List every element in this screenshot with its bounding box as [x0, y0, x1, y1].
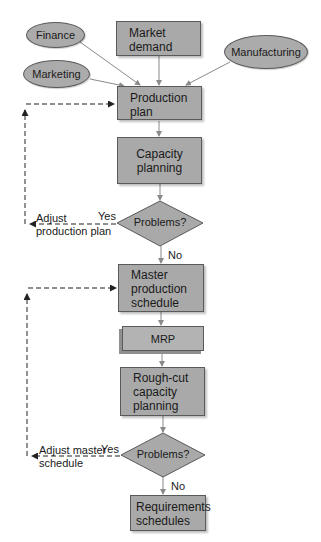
no-label-2: No	[171, 480, 185, 493]
marketing-node: Marketing	[23, 60, 90, 88]
adjust-master-schedule-label: Adjust master schedule	[39, 444, 121, 470]
rough-cut-node: Rough-cut capacity planning	[120, 367, 205, 416]
finance-label: Finance	[36, 29, 75, 41]
market-demand-node: Market demand	[116, 21, 201, 56]
requirements-label: Requirements schedules	[136, 500, 206, 528]
capacity-planning-node: Capacity planning	[117, 137, 202, 184]
requirements-node: Requirements schedules	[130, 495, 206, 531]
manufacturing-node: Manufacturing	[224, 35, 308, 69]
production-plan-node: Production plan	[117, 86, 202, 120]
manufacturing-label: Manufacturing	[231, 46, 301, 58]
mrp-label: MRP	[151, 333, 175, 345]
capacity-planning-label: Capacity planning	[130, 147, 190, 175]
finance-node: Finance	[26, 22, 85, 48]
production-plan-label: Production plan	[130, 91, 192, 119]
market-demand-label: Market demand	[129, 26, 189, 54]
decision-2-label: Problems?	[125, 448, 201, 460]
no-label-1: No	[168, 249, 182, 262]
decision-1-label: Problems?	[122, 216, 198, 228]
master-schedule-label: Master production schedule	[131, 268, 191, 310]
master-schedule-node: Master production schedule	[118, 264, 204, 312]
marketing-label: Marketing	[32, 68, 80, 80]
adjust-production-plan-label: Adjust production plan	[36, 212, 116, 238]
mrp-node: MRP	[122, 326, 204, 351]
rough-cut-label: Rough-cut capacity planning	[133, 371, 193, 413]
